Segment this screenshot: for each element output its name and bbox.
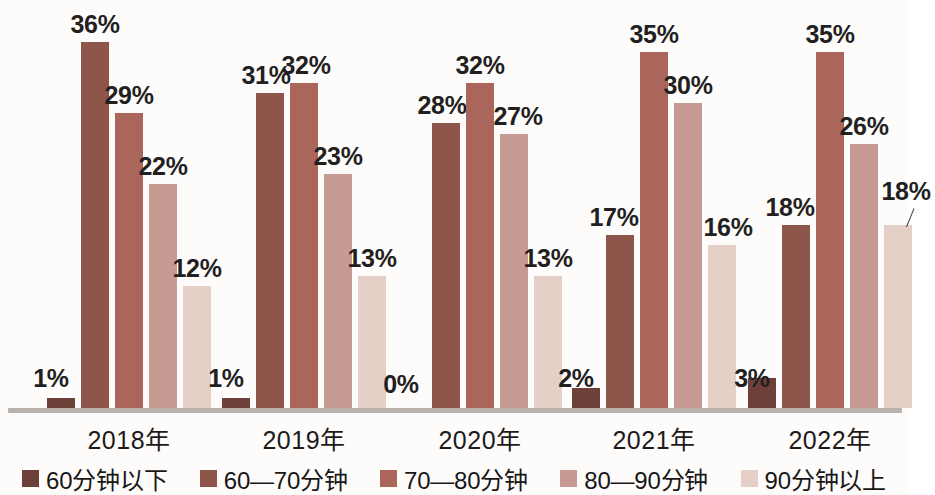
x-axis-category-label: 2019年 bbox=[214, 420, 394, 456]
bar-value-label: 18% bbox=[861, 177, 935, 206]
legend-swatch-icon bbox=[380, 470, 397, 487]
bar-value-label: 26% bbox=[819, 112, 909, 141]
chart-legend: 60分钟以下60—70分钟70—80分钟80—90分钟90分钟以上 bbox=[0, 462, 908, 495]
legend-label: 60分钟以下 bbox=[46, 461, 168, 495]
bar-value-label: 22% bbox=[118, 152, 208, 181]
bar-2020-series3[interactable] bbox=[466, 83, 494, 408]
bar-value-label: 30% bbox=[643, 71, 733, 100]
bar-2018-series1[interactable] bbox=[47, 398, 75, 408]
legend-swatch-icon bbox=[22, 470, 39, 487]
bar-2019-series1[interactable] bbox=[222, 398, 250, 408]
bar-value-label: 29% bbox=[84, 81, 174, 110]
bar-value-label: 12% bbox=[152, 254, 242, 283]
legend-swatch-icon bbox=[560, 470, 577, 487]
bar-value-label: 13% bbox=[503, 244, 593, 273]
bar-2019-series3[interactable] bbox=[290, 83, 318, 408]
bar-2022-series2[interactable] bbox=[782, 225, 810, 408]
legend-label: 90分钟以上 bbox=[765, 461, 887, 495]
bar-2022-series5[interactable] bbox=[884, 225, 912, 408]
legend-swatch-icon bbox=[741, 470, 758, 487]
bar-value-label: 27% bbox=[473, 102, 563, 131]
x-axis-baseline bbox=[8, 408, 902, 413]
bar-value-label: 35% bbox=[785, 20, 875, 49]
legend-item-3[interactable]: 70—80分钟 bbox=[380, 461, 528, 495]
legend-label: 80—90分钟 bbox=[584, 461, 708, 495]
x-axis-category-label: 2018年 bbox=[39, 420, 219, 456]
plot-area: 1%36%29%22%12%1%31%32%23%13%0%28%32%27%1… bbox=[0, 0, 908, 412]
bar-2020-series2[interactable] bbox=[432, 123, 460, 408]
bar-2019-series4[interactable] bbox=[324, 174, 352, 408]
bar-2022-series3[interactable] bbox=[816, 52, 844, 408]
bar-2021-series4[interactable] bbox=[674, 103, 702, 408]
legend-label: 60—70分钟 bbox=[224, 461, 348, 495]
x-axis-category-label: 2022年 bbox=[740, 420, 920, 456]
legend-swatch-icon bbox=[200, 470, 217, 487]
bar-2021-series3[interactable] bbox=[640, 52, 668, 408]
bar-value-label: 23% bbox=[293, 142, 383, 171]
bar-2021-series2[interactable] bbox=[606, 235, 634, 408]
bar-value-label: 32% bbox=[435, 51, 525, 80]
x-axis-category-label: 2020年 bbox=[390, 420, 570, 456]
legend-item-4[interactable]: 80—90分钟 bbox=[560, 461, 708, 495]
legend-item-1[interactable]: 60分钟以下 bbox=[22, 461, 168, 495]
bar-value-label: 35% bbox=[609, 20, 699, 49]
bar-2019-series2[interactable] bbox=[256, 93, 284, 408]
bar-value-label: 36% bbox=[50, 10, 140, 39]
bar-2018-series4[interactable] bbox=[149, 184, 177, 408]
x-axis-category-label: 2021年 bbox=[564, 420, 744, 456]
bar-value-label: 32% bbox=[261, 51, 351, 80]
legend-item-2[interactable]: 60—70分钟 bbox=[200, 461, 348, 495]
bar-value-label: 13% bbox=[327, 244, 417, 273]
legend-item-5[interactable]: 90分钟以上 bbox=[741, 461, 887, 495]
legend-label: 70—80分钟 bbox=[404, 461, 528, 495]
